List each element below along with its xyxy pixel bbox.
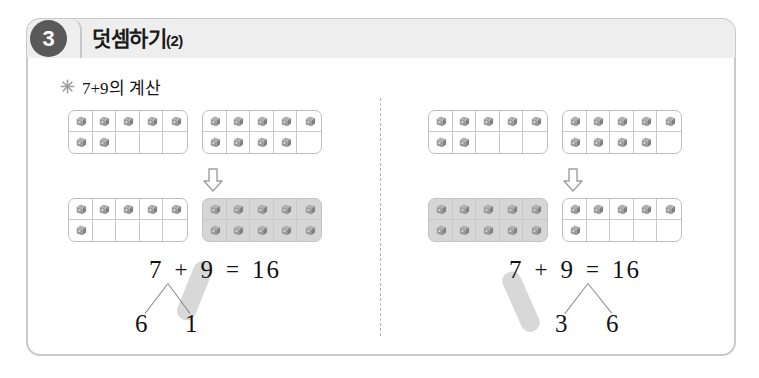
cube-counter-icon xyxy=(663,203,676,216)
frame-cell-filled xyxy=(523,199,547,220)
frame-cell-filled xyxy=(476,199,500,220)
star-bullet-icon xyxy=(60,79,75,94)
cube-counter-icon xyxy=(97,115,110,128)
frame-cell-filled xyxy=(163,111,187,132)
ten-frame-frame-b xyxy=(562,198,682,242)
cube-counter-icon xyxy=(303,115,316,128)
frame-cell-filled xyxy=(610,199,634,220)
frame-cell-filled xyxy=(657,199,681,220)
cube-counter-icon xyxy=(615,136,628,149)
equation-result: 16 xyxy=(252,256,281,284)
frame-cell-empty xyxy=(657,220,681,241)
cube-counter-icon xyxy=(457,203,470,216)
cube-counter-icon xyxy=(457,115,470,128)
frame-cell-filled xyxy=(523,111,547,132)
vertical-dashed-divider xyxy=(380,98,381,336)
frame-cell-filled xyxy=(563,220,587,241)
equation-plus-operator: + xyxy=(175,257,188,283)
frame-cell-filled xyxy=(563,199,587,220)
equation-line: 7+9=16 xyxy=(410,255,740,285)
frame-cell-filled xyxy=(476,220,500,241)
frame-cell-filled xyxy=(453,132,477,153)
frame-cell-filled xyxy=(69,199,93,220)
frame-cell-filled xyxy=(250,199,274,220)
frame-cell-filled xyxy=(93,111,117,132)
cube-counter-icon xyxy=(208,115,221,128)
frame-cell-filled xyxy=(69,111,93,132)
cube-counter-icon xyxy=(591,136,604,149)
frame-cell-filled xyxy=(116,199,140,220)
decomposition-part-right: 6 xyxy=(606,310,619,338)
frame-cell-filled xyxy=(203,111,227,132)
cube-counter-icon xyxy=(434,203,447,216)
equation-equals-operator: = xyxy=(586,257,599,283)
cube-counter-icon xyxy=(615,115,628,128)
branch-leg-left xyxy=(565,283,589,314)
subtitle-row: 7+9의 계산 xyxy=(60,74,161,99)
frame-row-before xyxy=(68,110,322,154)
frame-cell-empty xyxy=(500,132,524,153)
down-arrow-icon xyxy=(562,168,584,192)
frame-cell-filled xyxy=(657,111,681,132)
frame-cell-filled xyxy=(93,132,117,153)
cube-counter-icon xyxy=(255,136,268,149)
cube-counter-icon xyxy=(457,224,470,237)
frame-cell-filled xyxy=(140,111,164,132)
cube-counter-icon xyxy=(615,203,628,216)
ten-frame-frame-a xyxy=(68,198,188,242)
frame-cell-empty xyxy=(140,132,164,153)
frame-cell-filled xyxy=(476,111,500,132)
frame-cell-filled xyxy=(203,220,227,241)
frame-cell-filled xyxy=(203,199,227,220)
cube-counter-icon xyxy=(505,224,518,237)
cube-counter-icon xyxy=(505,203,518,216)
frame-cell-filled xyxy=(93,199,117,220)
equation-addend1: 7 xyxy=(509,256,522,284)
frame-cell-filled xyxy=(250,220,274,241)
frame-cell-filled xyxy=(429,199,453,220)
frame-cell-empty xyxy=(116,220,140,241)
cube-counter-icon xyxy=(208,136,221,149)
frame-cell-filled xyxy=(610,132,634,153)
page-title: 덧셈하기(2) xyxy=(92,22,183,57)
panel-right-method: 7+9=1636 xyxy=(410,100,740,340)
frame-cell-filled xyxy=(274,199,298,220)
cube-counter-icon xyxy=(121,115,134,128)
equation-group: 7+9=1661 xyxy=(50,255,380,340)
panel-left-method: 7+9=1661 xyxy=(50,100,380,340)
frame-cell-filled xyxy=(163,199,187,220)
cube-counter-icon xyxy=(529,224,542,237)
ten-frame-frame-b-highlighted xyxy=(202,198,322,242)
frame-cell-empty xyxy=(93,220,117,241)
frame-cell-filled xyxy=(227,111,251,132)
frame-cell-filled xyxy=(587,132,611,153)
frame-cell-filled xyxy=(297,111,321,132)
cube-counter-icon xyxy=(208,224,221,237)
cube-counter-icon xyxy=(457,136,470,149)
cube-counter-icon xyxy=(74,115,87,128)
ten-frame-frame-a xyxy=(68,110,188,154)
frame-row-before xyxy=(428,110,682,154)
frame-cell-filled xyxy=(500,199,524,220)
cube-counter-icon xyxy=(231,115,244,128)
cube-counter-icon xyxy=(481,115,494,128)
ten-frame-frame-a-highlighted xyxy=(428,198,548,242)
cube-counter-icon xyxy=(255,203,268,216)
cube-counter-icon xyxy=(255,115,268,128)
equation-equals-operator: = xyxy=(226,257,239,283)
equation-line: 7+9=16 xyxy=(50,255,380,285)
cube-counter-icon xyxy=(434,224,447,237)
frame-cell-empty xyxy=(476,132,500,153)
cube-counter-icon xyxy=(639,203,652,216)
cube-counter-icon xyxy=(591,203,604,216)
cube-counter-icon xyxy=(279,224,292,237)
frame-cell-empty xyxy=(634,220,658,241)
frame-cell-filled xyxy=(634,199,658,220)
subtitle-text: 7+9의 계산 xyxy=(82,74,161,99)
frame-row-after xyxy=(428,198,682,242)
cube-counter-icon xyxy=(231,136,244,149)
frame-cell-filled xyxy=(563,111,587,132)
cube-counter-icon xyxy=(97,203,110,216)
cube-counter-icon xyxy=(121,203,134,216)
cube-counter-icon xyxy=(74,224,87,237)
